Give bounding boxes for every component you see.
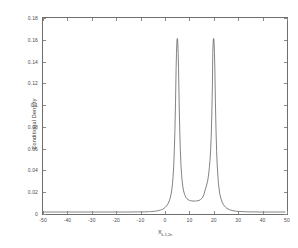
y-tick-mark (43, 83, 46, 84)
y-tick-label: 0.04 (28, 168, 38, 173)
x-tick-mark (43, 211, 44, 214)
y-tick-mark-right (284, 105, 287, 106)
x-tick-mark-top (92, 18, 93, 21)
y-tick-label: 0.16 (28, 37, 38, 42)
x-tick-mark (263, 211, 264, 214)
figure-canvas: Conditional Density 00.020.040.060.080.1… (0, 0, 298, 248)
x-tick-mark (214, 211, 215, 214)
x-axis-title-subscript: k-1,2n (162, 233, 173, 237)
y-tick-label: 0.02 (28, 190, 38, 195)
y-tick-mark-right (284, 192, 287, 193)
x-tick-label: -30 (88, 218, 96, 223)
plot-area: 00.020.040.060.080.10.120.140.160.18-50-… (42, 17, 288, 215)
y-tick-mark (43, 127, 46, 128)
x-tick-mark (189, 211, 190, 214)
y-tick-mark (43, 62, 46, 63)
x-tick-mark (165, 211, 166, 214)
y-tick-label: 0.1 (31, 103, 38, 108)
x-tick-label: 0 (164, 218, 167, 223)
x-tick-label: -40 (64, 218, 72, 223)
x-tick-mark (141, 211, 142, 214)
y-tick-label: 0.18 (28, 16, 38, 21)
x-tick-mark (67, 211, 68, 214)
x-tick-mark-top (263, 18, 264, 21)
x-tick-label: -20 (112, 218, 120, 223)
y-tick-mark (43, 192, 46, 193)
x-tick-label: 30 (235, 218, 241, 223)
x-tick-mark (116, 211, 117, 214)
x-tick-label: -10 (137, 218, 145, 223)
y-tick-label: 0.14 (28, 59, 38, 64)
x-tick-mark-top (189, 18, 190, 21)
y-tick-mark-right (284, 62, 287, 63)
x-tick-mark-top (116, 18, 117, 21)
x-tick-label: 50 (284, 218, 290, 223)
y-tick-mark-right (284, 40, 287, 41)
y-tick-mark (43, 40, 46, 41)
x-tick-mark-top (165, 18, 166, 21)
y-tick-mark-right (284, 83, 287, 84)
y-tick-label: 0 (35, 212, 38, 217)
y-tick-mark (43, 170, 46, 171)
y-tick-label: 0.12 (28, 81, 38, 86)
x-tick-mark-top (67, 18, 68, 21)
x-tick-mark-top (287, 18, 288, 21)
x-axis-title: Xk-1,2n (158, 230, 172, 238)
y-tick-mark-right (284, 170, 287, 171)
density-curve (43, 18, 287, 214)
x-tick-mark-top (141, 18, 142, 21)
y-tick-mark (43, 214, 46, 215)
x-tick-mark (92, 211, 93, 214)
x-tick-label: 10 (187, 218, 193, 223)
x-tick-mark-top (43, 18, 44, 21)
y-tick-mark (43, 105, 46, 106)
x-tick-mark (287, 211, 288, 214)
x-tick-label: 20 (211, 218, 217, 223)
y-tick-mark-right (284, 127, 287, 128)
x-tick-mark-top (238, 18, 239, 21)
x-tick-mark-top (214, 18, 215, 21)
y-tick-label: 0.08 (28, 124, 38, 129)
x-tick-mark (238, 211, 239, 214)
x-tick-label: 40 (260, 218, 266, 223)
y-tick-label: 0.06 (28, 146, 38, 151)
x-tick-label: -50 (39, 218, 47, 223)
y-tick-mark-right (284, 149, 287, 150)
y-tick-mark (43, 149, 46, 150)
y-tick-mark-right (284, 214, 287, 215)
